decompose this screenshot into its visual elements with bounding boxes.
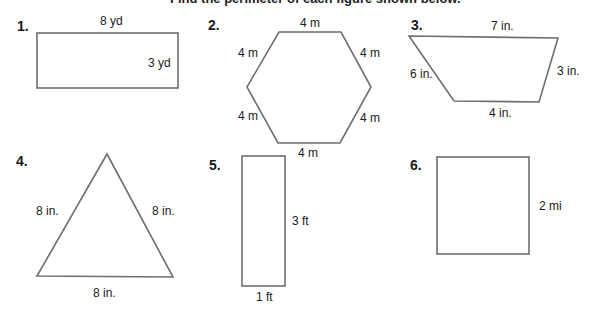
figure-3-label-left: 6 in. [410, 67, 433, 81]
figure-2-label-top: 4 m [300, 16, 320, 30]
figure-2-label-bottom: 4 m [298, 146, 318, 160]
figure-4-label-left: 8 in. [36, 204, 59, 218]
figure-4-label-bottom: 8 in. [93, 286, 116, 300]
figure-6-square [437, 157, 529, 254]
figure-4-label-right: 8 in. [152, 204, 175, 218]
figure-4-number: 4. [16, 153, 28, 169]
figure-2-hexagon [247, 32, 371, 143]
figure-3-number: 3. [411, 17, 423, 33]
figure-5-rectangle [242, 156, 285, 286]
figure-2-label-lower-right: 4 m [360, 111, 380, 125]
figure-6-label-right: 2 mi [539, 199, 562, 213]
figure-5-label-bottom: 1 ft [256, 290, 273, 304]
figure-6-number: 6. [410, 157, 422, 173]
figure-5-number: 5. [209, 157, 221, 173]
figure-3-label-bottom: 4 in. [489, 106, 512, 120]
figure-2-label-upper-right: 4 m [360, 46, 380, 60]
figure-5-label-right: 3 ft [292, 214, 309, 228]
figure-1-label-right: 3 yd [148, 56, 171, 70]
figure-2-label-lower-left: 4 m [238, 109, 258, 123]
figure-3-label-top: 7 in. [491, 19, 514, 33]
figure-2-label-upper-left: 4 m [238, 46, 258, 60]
figure-1-number: 1. [17, 18, 29, 34]
figure-3-label-right: 3 in. [557, 64, 580, 78]
figure-1-label-top: 8 yd [100, 14, 123, 28]
figure-2-number: 2. [208, 17, 220, 33]
